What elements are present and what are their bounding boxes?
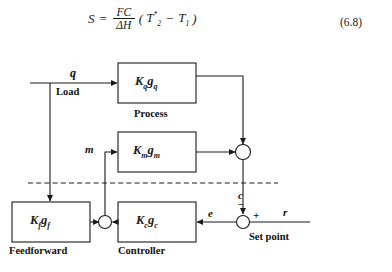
- controller-caption: Controller: [118, 245, 165, 256]
- equation-denominator: ΔH: [114, 19, 133, 31]
- feedforward-block-label: Kfgf: [30, 213, 50, 230]
- equation-term-2: T1: [178, 10, 189, 28]
- process-caption: Process: [134, 108, 168, 119]
- term-1-sub: 2: [157, 19, 161, 28]
- load-caption: Load: [56, 86, 79, 97]
- equation-numerator: FC: [114, 6, 133, 18]
- term-2-sub: 1: [186, 18, 190, 27]
- controller-block-label: Kcgc: [136, 213, 158, 230]
- manipulated-summing-junction: [99, 216, 112, 229]
- setpoint-summing-junction: [237, 216, 250, 229]
- equation-lhs: S: [88, 11, 95, 27]
- process-output-line: [196, 76, 243, 144]
- feedforward-caption: Feedforward: [9, 245, 67, 256]
- output-summing-junction: [236, 145, 251, 160]
- measurement-block-label: Kmgm: [133, 143, 160, 160]
- feedforward-block-rect: [12, 202, 90, 242]
- equation-minus-sign: −: [164, 11, 175, 27]
- plus-sign-label: +: [253, 209, 259, 221]
- equation-number: (6.8): [340, 16, 362, 28]
- process-block-label: Kqgq: [135, 74, 158, 91]
- equation-paren-open: (: [139, 11, 143, 27]
- reference-signal-label: r: [283, 206, 287, 218]
- equation-fraction: FC ΔH: [113, 6, 135, 31]
- equation-paren-close: ): [192, 11, 196, 27]
- equation-row: S = FC ΔH ( T*2 − T1 ) (6.8): [0, 4, 392, 42]
- diagram-lines: [0, 48, 392, 272]
- figure-page: S = FC ΔH ( T*2 − T1 ) (6.8): [0, 0, 392, 272]
- setpoint-caption: Set point: [249, 231, 289, 242]
- load-signal-label: q: [70, 66, 76, 81]
- minus-sign-label: −: [238, 199, 244, 210]
- term-2-base: T: [178, 10, 185, 25]
- manipulated-signal-label: m: [85, 143, 94, 155]
- equation-equals-sign: =: [98, 11, 109, 27]
- equation-6-8: S = FC ΔH ( T*2 − T1 ): [88, 6, 197, 31]
- equation-term-1: T*2: [146, 10, 161, 28]
- error-signal-label: e: [208, 207, 213, 219]
- term-1-sup: *: [153, 10, 157, 19]
- block-diagram: Kqgq Kmgm Kfgf Kcgc Process Feedforward …: [0, 48, 392, 272]
